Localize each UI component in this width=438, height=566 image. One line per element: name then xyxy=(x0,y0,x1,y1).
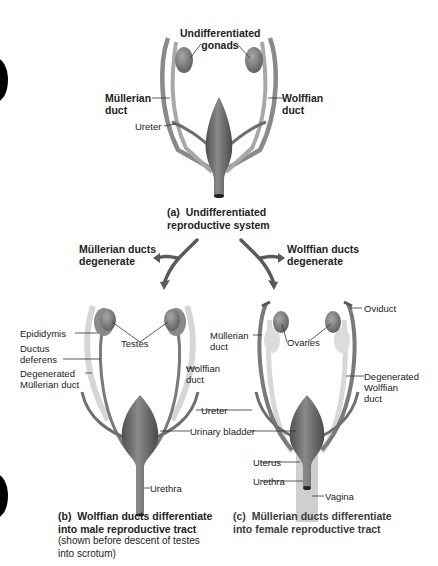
caption-text: Undifferentiated xyxy=(186,206,267,218)
label-degenerated-wolffian: Degenerated Wolffian duct xyxy=(364,371,419,404)
label-ovaries: Ovaries xyxy=(287,337,320,348)
label-line: deferens xyxy=(20,354,57,365)
label-line: duct xyxy=(186,374,220,385)
caption-a-line2: reproductive system xyxy=(167,219,270,232)
label-degenerated-mullerian: Degenerated Müllerian duct xyxy=(20,368,79,390)
label-line: degenerate xyxy=(79,255,156,267)
label-wolffian-duct-b: Wolffian duct xyxy=(186,363,220,385)
panel-c-drawing xyxy=(256,302,358,522)
label-vagina: Vagina xyxy=(325,491,354,502)
label-line: Degenerated xyxy=(364,371,419,382)
label-ductus-deferens: Ductus deferens xyxy=(20,343,57,365)
label-urethra-b: Urethra xyxy=(150,483,182,494)
label-testes: Testes xyxy=(121,338,148,349)
label-uterus: Uterus xyxy=(253,457,281,468)
label-line: Wolffian ducts xyxy=(287,243,359,255)
label-epididymis: Epididymis xyxy=(20,328,66,339)
label-wolffian-degenerate: Wolffian ducts degenerate xyxy=(287,243,359,267)
label-wolffian-duct-a: Wolffian duct xyxy=(282,92,323,116)
caption-b-line1: (b) Wolffian ducts differentiate xyxy=(58,510,212,523)
branch-arrows xyxy=(157,240,281,281)
label-undifferentiated-gonads: Undifferentiated gonads xyxy=(180,27,260,51)
label-line: duct xyxy=(105,104,151,116)
label-line: Degenerated xyxy=(20,368,79,379)
label-line: Müllerian duct xyxy=(20,379,79,390)
caption-c-line1: (c) Müllerian ducts differentiate xyxy=(233,510,392,523)
label-line: Müllerian ducts xyxy=(79,243,156,255)
caption-panel-c: (c) Müllerian ducts differentiate into f… xyxy=(233,510,392,535)
label-line: Wolffian xyxy=(364,382,419,393)
label-urethra-c: Urethra xyxy=(253,476,285,487)
caption-c-line2: into female reproductive tract xyxy=(233,523,392,536)
caption-a-line1: (a) Undifferentiated xyxy=(167,206,270,219)
caption-panel-b: (b) Wolffian ducts differentiate into ma… xyxy=(58,510,212,560)
label-line: duct xyxy=(364,393,419,404)
caption-letter: (c) xyxy=(233,510,246,522)
caption-b-note1: (shown before descent of testes xyxy=(58,535,212,548)
label-oviduct: Oviduct xyxy=(364,303,396,314)
label-mullerian-degenerate: Müllerian ducts degenerate xyxy=(79,243,156,267)
caption-text: Wolffian ducts differentiate xyxy=(77,510,212,522)
label-ureter-shared: Ureter xyxy=(201,405,227,416)
label-mullerian-duct-c: Müllerian duct xyxy=(210,330,249,352)
label-line: Wolffian xyxy=(282,92,323,104)
label-line: Wolffian xyxy=(186,363,220,374)
label-line: Undifferentiated xyxy=(180,27,260,39)
label-line: Müllerian xyxy=(105,92,151,104)
label-ureter-a: Ureter xyxy=(135,121,161,132)
label-line: Ductus xyxy=(20,343,57,354)
panel-a-drawing xyxy=(162,38,275,198)
label-mullerian-duct-a: Müllerian duct xyxy=(105,92,151,116)
caption-letter: (a) xyxy=(167,206,180,218)
label-line: Müllerian xyxy=(210,330,249,341)
label-urinary-bladder: Urinary bladder xyxy=(190,426,255,437)
caption-letter: (b) xyxy=(58,510,71,522)
label-line: gonads xyxy=(180,39,260,51)
caption-b-line2: into male reproductive tract xyxy=(58,523,212,536)
caption-panel-a: (a) Undifferentiated reproductive system xyxy=(167,206,270,231)
label-line: duct xyxy=(282,104,323,116)
label-line: degenerate xyxy=(287,255,359,267)
label-line: duct xyxy=(210,341,249,352)
caption-b-note2: into scrotum) xyxy=(58,548,212,561)
caption-text: Müllerian ducts differentiate xyxy=(252,510,392,522)
reproductive-diagram-illustration xyxy=(0,0,438,566)
